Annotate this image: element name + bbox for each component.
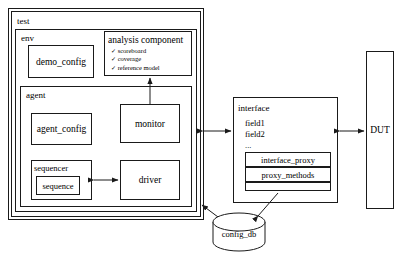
arrow-configdb-to-interface <box>258 193 278 216</box>
diagram-canvas: test env demo_config analysis component … <box>0 0 405 253</box>
arrow-configdb-to-test <box>202 205 218 217</box>
connector-arrows <box>0 0 405 253</box>
